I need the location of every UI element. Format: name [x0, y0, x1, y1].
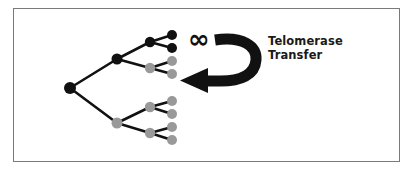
label-line-2: Transfer	[268, 48, 388, 62]
telomerase-transfer-label: Telomerase Transfer	[268, 34, 388, 62]
label-line-1: Telomerase	[268, 34, 388, 48]
figure-screenshot: ∞ Telomerase Transfer	[0, 0, 413, 174]
infinity-symbol: ∞	[188, 26, 210, 52]
